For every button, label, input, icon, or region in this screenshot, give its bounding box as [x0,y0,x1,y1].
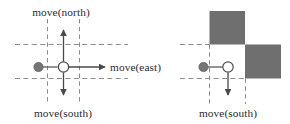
right-panel-group: move(south) [180,11,281,120]
right-obstacle-lower-right [245,45,281,79]
left-agent-dot-icon [34,62,43,71]
diagram-canvas: move(north) move(east) move(south) [0,0,290,124]
left-label-move-east: move(east) [110,61,161,74]
left-panel-group: move(north) move(east) move(south) [15,6,161,120]
left-label-move-north: move(north) [32,6,90,19]
right-obstacle-upper-left [210,11,246,45]
right-label-move-south: move(south) [199,107,257,120]
right-grid-lines [180,45,246,105]
right-target-circle-icon [223,62,233,72]
left-target-circle-icon [58,62,68,72]
figure-container: move(north) move(east) move(south) [0,0,290,124]
left-label-move-south: move(south) [34,107,92,120]
right-agent-dot-icon [199,62,208,71]
